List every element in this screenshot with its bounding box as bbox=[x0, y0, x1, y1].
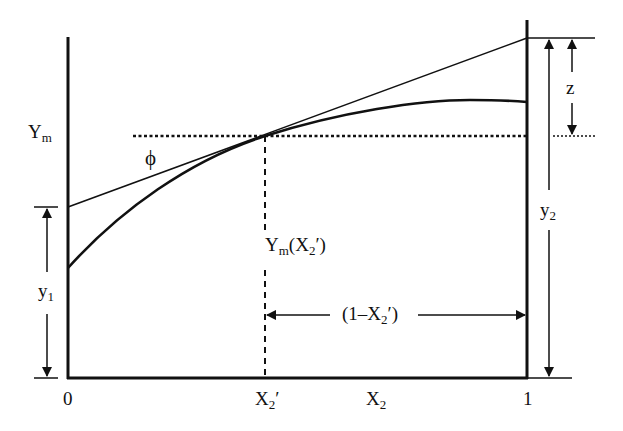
ym-label: Ym bbox=[28, 122, 52, 144]
y2-label: y2 bbox=[540, 200, 556, 222]
diagram-graphics bbox=[0, 0, 623, 431]
span-label: (1–X2′) bbox=[342, 304, 398, 326]
x-end-label: 1 bbox=[523, 389, 533, 408]
ym-of-x2-prime-label: Ym(X2′) bbox=[265, 235, 326, 257]
z-label: z bbox=[566, 78, 574, 97]
y1-label: y1 bbox=[38, 281, 54, 303]
x2-axis-label: X2 bbox=[366, 389, 386, 411]
tangent-line bbox=[68, 38, 527, 207]
x-origin-label: 0 bbox=[63, 389, 73, 408]
diagram-canvas: Ym ϕ Ym(X2′) y1 y2 z (1–X2′) 0 X2′ X2 1 bbox=[0, 0, 623, 431]
phi-angle-label: ϕ bbox=[145, 148, 156, 169]
x2-prime-label: X2′ bbox=[255, 389, 279, 411]
